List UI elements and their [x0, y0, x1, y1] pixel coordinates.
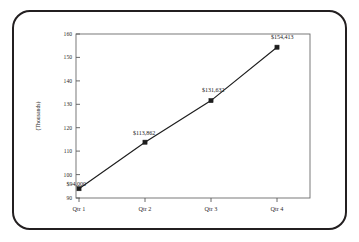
y-tick-label: 140 [64, 78, 73, 84]
data-point-marker[interactable] [275, 45, 279, 49]
x-tick-label: Qtr 3 [205, 205, 218, 212]
line-chart: 160 150 140 130 120 110 100 90 Qtr 1 Qtr… [14, 12, 349, 232]
y-axis-title: (Thousands) [35, 101, 42, 130]
chart-card: 160 150 140 130 120 110 100 90 Qtr 1 Qtr… [12, 10, 347, 230]
x-axis-tick-labels: Qtr 1 Qtr 2 Qtr 3 Qtr 4 [73, 205, 284, 212]
y-axis-tick-labels: 160 150 140 130 120 110 100 90 [64, 31, 73, 201]
y-tick-label: 160 [64, 31, 73, 37]
x-tick-label: Qtr 4 [271, 205, 284, 212]
series-line [79, 47, 277, 189]
y-axis-ticks [76, 34, 80, 198]
data-point-label: $131,632 [202, 87, 225, 93]
y-tick-label: 90 [66, 195, 72, 201]
data-point-marker[interactable] [209, 99, 213, 103]
y-tick-label: 100 [64, 172, 73, 178]
data-point-label: $113,862 [133, 130, 155, 136]
x-axis-ticks [79, 198, 277, 202]
y-tick-label: 150 [64, 54, 73, 60]
y-tick-label: 130 [64, 101, 73, 107]
x-tick-label: Qtr 2 [139, 205, 152, 212]
chart-stage: 160 150 140 130 120 110 100 90 Qtr 1 Qtr… [14, 12, 349, 232]
plot-area-frame [76, 34, 310, 198]
data-point-label: $154,413 [271, 34, 294, 40]
data-point-marker[interactable] [143, 140, 147, 144]
x-tick-label: Qtr 1 [73, 205, 86, 212]
data-point-label: $94,000 [67, 181, 87, 187]
y-tick-label: 110 [64, 148, 72, 154]
data-point-labels: $94,000 $113,862 $131,632 $154,413 [67, 34, 294, 187]
y-tick-label: 120 [64, 125, 73, 131]
data-point-marker[interactable] [77, 187, 81, 191]
